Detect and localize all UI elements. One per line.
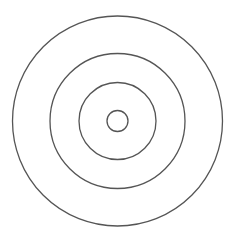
concentric-circles-diagram [0, 0, 231, 240]
second-ring [50, 54, 185, 189]
third-ring [79, 83, 156, 160]
inner-ring [107, 111, 128, 132]
outer-ring [13, 16, 223, 226]
